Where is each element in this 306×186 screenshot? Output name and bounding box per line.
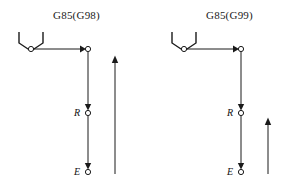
e-point-marker bbox=[85, 169, 90, 174]
panel-g98-graphics bbox=[0, 0, 153, 186]
r-point-marker bbox=[238, 110, 243, 115]
panel-g99: G85(G99) R E bbox=[153, 0, 306, 186]
feed-arrowhead-e bbox=[85, 163, 91, 169]
retract-arrowhead-g98 bbox=[112, 56, 118, 63]
label-e-point-g98: E bbox=[64, 166, 80, 177]
start-point-marker bbox=[181, 46, 186, 51]
initial-plane-marker bbox=[238, 46, 243, 51]
feed-arrowhead-e bbox=[238, 163, 244, 169]
retract-arrowhead-g99 bbox=[265, 118, 271, 125]
approach-arrowhead-r bbox=[85, 104, 91, 110]
panel-g99-graphics bbox=[153, 0, 306, 186]
e-point-marker bbox=[238, 169, 243, 174]
r-point-marker bbox=[85, 110, 90, 115]
initial-plane-marker bbox=[85, 46, 90, 51]
panel-g98: G85(G98) R E bbox=[0, 0, 153, 186]
label-r-point-g98: R bbox=[64, 107, 80, 118]
label-e-point-g99: E bbox=[217, 166, 233, 177]
start-point-marker bbox=[28, 46, 33, 51]
label-r-point-g99: R bbox=[217, 107, 233, 118]
approach-arrowhead-r bbox=[238, 104, 244, 110]
g85-cycle-diagram: G85(G98) R E G85(G9 bbox=[0, 0, 306, 186]
